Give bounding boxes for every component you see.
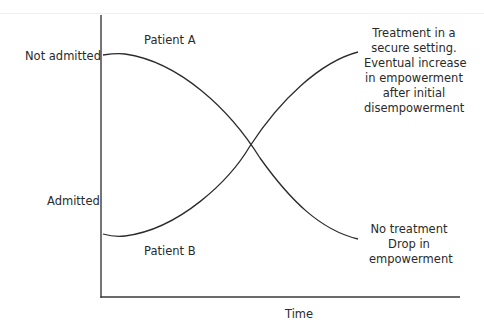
annotation-line: Eventual increase <box>364 56 464 71</box>
patient-b-curve <box>103 52 358 236</box>
patient-b-label: Patient B <box>144 244 196 259</box>
x-axis-label: Time <box>285 307 313 322</box>
annotation-line: empowerment <box>369 252 449 267</box>
annotation-line: disempowerment <box>364 101 464 116</box>
treatment-annotation: Treatment in a secure setting. Eventual … <box>364 26 464 116</box>
no-treatment-annotation: No treatment Drop in empowerment <box>369 222 449 267</box>
annotation-line: secure setting. <box>364 41 464 56</box>
y-label-admitted: Admitted <box>47 194 100 209</box>
annotation-line: No treatment <box>369 222 449 237</box>
annotation-line: Drop in <box>369 237 449 252</box>
annotation-line: Treatment in a <box>364 26 464 41</box>
y-label-not-admitted: Not admitted <box>25 49 101 64</box>
annotation-line: after initial <box>364 86 464 101</box>
annotation-line: in empowerment <box>364 71 464 86</box>
patient-a-curve <box>103 54 358 239</box>
patient-a-label: Patient A <box>144 33 196 48</box>
